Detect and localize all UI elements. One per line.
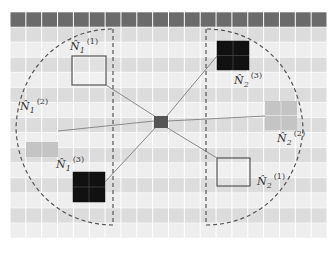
neighbor-node-n1_2 <box>26 142 58 157</box>
center-node <box>154 116 168 128</box>
diagram-canvas: N̂1(1)N̂1(2)N̂1(3)N̂2(3)N̂2(2)N̂2(1) <box>0 0 336 253</box>
neighbor-node-n1_3 <box>73 172 105 202</box>
neighbor-node-n1_1 <box>72 56 106 85</box>
neighbor-node-n2_1 <box>217 158 250 186</box>
neighbor-graph-diagram: N̂1(1)N̂1(2)N̂1(3)N̂2(3)N̂2(2)N̂2(1) <box>0 0 336 253</box>
center-pixel <box>154 116 168 128</box>
neighbor-node-n2_2 <box>265 101 297 130</box>
neighbor-node-n2_3 <box>217 41 249 70</box>
